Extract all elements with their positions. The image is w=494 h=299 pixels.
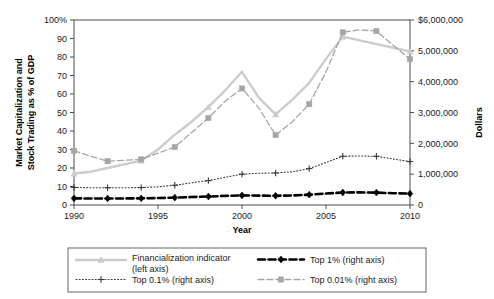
y-axis-tick-label: 40 [57, 126, 67, 136]
data-point-marker [71, 148, 76, 153]
y-axis-tick-label: 10 [57, 182, 67, 192]
y2-axis-tick-label: 1,000,000 [418, 169, 458, 179]
y-axis-tick-label: 50 [57, 108, 67, 118]
y-axis-tick-label: 80 [57, 52, 67, 62]
y2-axis-tick-label: 5,000,000 [418, 46, 458, 56]
y2-axis-tick-label: $6,000,000 [418, 15, 463, 25]
y-axis-tick-label: 20 [57, 163, 67, 173]
chart-figure: 0102030405060708090100%01,000,0002,000,0… [0, 0, 494, 299]
data-point-marker [206, 115, 211, 120]
data-point-marker [273, 132, 278, 137]
x-axis-tick-label: 1990 [64, 211, 84, 221]
data-point-marker [340, 30, 345, 35]
x-axis-title: Year [232, 225, 252, 235]
data-point-marker [239, 86, 244, 91]
y-axis-tick-label: 90 [57, 34, 67, 44]
y-axis-tick-label: 70 [57, 71, 67, 81]
y2-axis-tick-label: 2,000,000 [418, 139, 458, 149]
y-axis-tick-label: 100% [44, 15, 67, 25]
legend-marker [278, 277, 283, 282]
x-axis-tick-label: 2005 [316, 211, 336, 221]
x-axis-tick-label: 2000 [232, 211, 252, 221]
y2-axis-tick-label: 4,000,000 [418, 77, 458, 87]
legend-label: Financialization indicator [132, 253, 231, 263]
y2-axis-tick-label: 0 [418, 200, 423, 210]
y-axis-title-line1: Market Capitalization and [14, 58, 24, 167]
data-point-marker [307, 102, 312, 107]
legend-label: Top 1% (right axis) [310, 255, 385, 265]
y-axis-tick-label: 60 [57, 89, 67, 99]
data-point-marker [374, 29, 379, 34]
chart-canvas: 0102030405060708090100%01,000,0002,000,0… [0, 0, 494, 299]
y-axis-tick-label: 30 [57, 145, 67, 155]
y2-axis-tick-label: 3,000,000 [418, 108, 458, 118]
data-point-marker [172, 144, 177, 149]
x-axis-tick-label: 1995 [148, 211, 168, 221]
data-point-marker [407, 57, 412, 62]
legend-label-line2: (left axis) [132, 264, 169, 274]
data-point-marker [105, 159, 110, 164]
x-axis-tick-label: 2010 [400, 211, 420, 221]
legend-label: Top 0.1% (right axis) [132, 275, 214, 285]
y-axis-title-line2: Stock Trading as % of GDP [26, 55, 36, 171]
legend-label: Top 0.01% (right axis) [310, 275, 397, 285]
y-axis-tick-label: 0 [62, 200, 67, 210]
data-point-marker [139, 157, 144, 162]
y2-axis-title: Dollars [474, 107, 484, 138]
